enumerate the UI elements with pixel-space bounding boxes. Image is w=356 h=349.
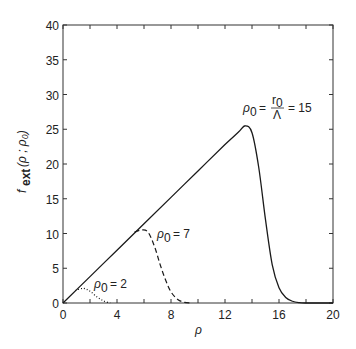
y-label-sub: ext	[19, 169, 33, 186]
y-tick-label: 40	[46, 19, 60, 33]
y-tick-label: 25	[46, 123, 60, 137]
x-tick-label: 20	[326, 308, 340, 322]
x-tick-label: 12	[218, 308, 232, 322]
x-tick-label: 8	[168, 308, 175, 322]
y-tick-label: 35	[46, 54, 60, 68]
curve-solid	[63, 126, 333, 303]
y-tick-label: 30	[46, 89, 60, 103]
x-tick-label: 4	[114, 308, 121, 322]
x-axis-label: ρ	[194, 323, 202, 337]
annotation-rho0-7: ρ 0 = 7	[156, 227, 190, 245]
curves	[63, 126, 333, 303]
y-label-args: (ρ ; ρ₀)	[15, 130, 29, 167]
y-tick-label: 0	[52, 297, 59, 311]
y-axis-label: f ext (ρ ; ρ₀)	[15, 130, 33, 193]
x-tick-label: 16	[272, 308, 286, 322]
annotation-rho0-15: ρ 0 = r 0 Λ = 15	[242, 93, 312, 122]
ann7-rho: ρ	[156, 227, 164, 241]
ann7-sub: 0	[164, 231, 171, 245]
y-tick-label: 15	[46, 193, 60, 207]
y-tick-label: 20	[46, 158, 60, 172]
ann2-rest: = 2	[110, 277, 127, 291]
x-tick-label: 0	[60, 308, 67, 322]
ann2-sub: 0	[101, 281, 108, 295]
y-tick-label: 10	[46, 228, 60, 242]
ann15-eq2: = 15	[288, 101, 312, 115]
chart: 0481216200510152025303540 ρ 0 = r 0 Λ = …	[0, 0, 356, 349]
ann15-eq1: =	[259, 101, 266, 115]
ann15-den: Λ	[273, 108, 281, 122]
annotation-rho0-2: ρ 0 = 2	[93, 277, 127, 295]
ann7-rest: = 7	[173, 227, 190, 241]
ann15-sub: 0	[250, 105, 257, 119]
plot-frame	[63, 25, 333, 303]
ann15-rho: ρ	[242, 101, 250, 115]
y-tick-label: 5	[52, 262, 59, 276]
ann2-rho: ρ	[93, 277, 101, 291]
y-label-f: f	[15, 188, 29, 193]
